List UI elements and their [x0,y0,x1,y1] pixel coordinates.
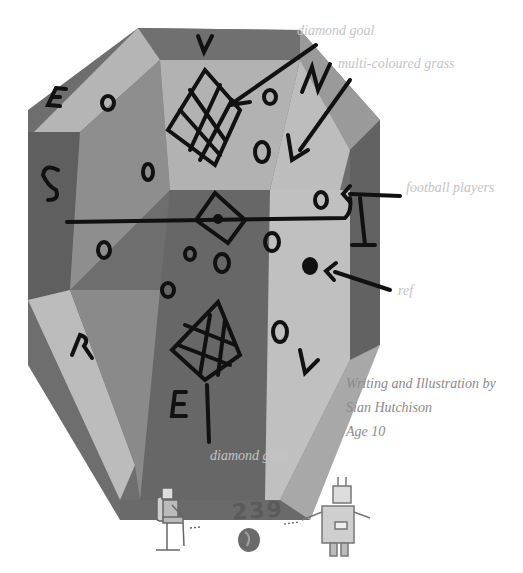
referee-dot [302,257,318,275]
label-diamond-goal-top: diamond goal [297,23,374,39]
credit-author: Sian Hutchison [346,396,496,420]
credit-age: Age 10 [346,420,496,444]
label-diamond-goal-bottom: diamond goal [210,448,287,464]
label-ref: ref [398,283,413,299]
credit-block: Writing and Illustration by Sian Hutchis… [346,372,496,444]
label-football-players: football players [406,180,494,196]
label-multi-coloured-grass: multi-coloured grass [338,56,455,72]
ball-icon [238,528,260,552]
page-number: 239 [231,496,285,525]
pitch-illustration [0,0,523,573]
credit-line-1: Writing and Illustration by [346,372,496,396]
